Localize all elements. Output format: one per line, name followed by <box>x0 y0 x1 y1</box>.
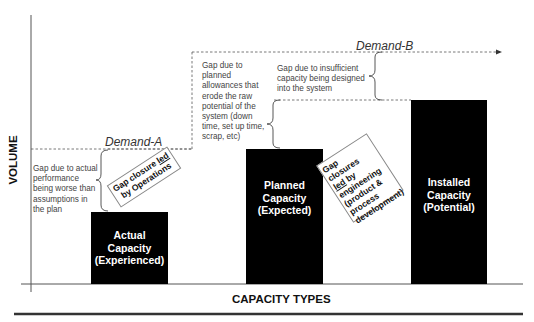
gap-note-actual: Gap due to actual performance being wors… <box>33 164 98 215</box>
note-line: into the system <box>277 84 365 94</box>
demand-b-label: Demand-B <box>356 39 413 53</box>
capacity-gap-diagram: VOLUME CAPACITY TYPES Demand-A Demand-B … <box>0 0 534 322</box>
arrow-head-icon <box>496 50 502 55</box>
bar-planned-capacity: Planned Capacity (Expected) <box>246 149 323 284</box>
bar-label-line: (Potential) <box>411 201 487 214</box>
bar-installed-capacity: Installed Capacity (Potential) <box>411 100 487 284</box>
note-line: Gap due to <box>202 61 264 71</box>
note-line: Gap due to insufficient <box>277 64 365 74</box>
x-axis-title: CAPACITY TYPES <box>232 293 331 305</box>
note-line: time, set up time, <box>202 122 264 132</box>
note-line: scrap, etc) <box>202 132 264 142</box>
note-line: Gap due to actual <box>33 164 98 174</box>
note-line: system (down <box>202 112 264 122</box>
bar-actual-capacity: Actual Capacity (Experienced) <box>91 212 168 284</box>
note-line: capacity being designed <box>277 74 365 84</box>
bar-label-line: Capacity <box>91 242 168 255</box>
demand-a-label: Demand-A <box>105 135 162 149</box>
gap-note-planned: Gap due to planned allowances that erode… <box>202 61 264 143</box>
bar-label-line: Actual <box>91 229 168 242</box>
note-line: potential of the <box>202 102 264 112</box>
brace-planned-icon <box>267 100 280 148</box>
note-line: allowances that <box>202 81 264 91</box>
brace-installed-icon <box>369 52 382 100</box>
bar-label-line: Capacity <box>246 192 323 205</box>
note-line: assumptions in <box>33 195 98 205</box>
note-line: planned <box>202 71 264 81</box>
bar-label-line: Planned <box>246 179 323 192</box>
bar-label-line: (Expected) <box>246 204 323 217</box>
brace-actual-icon <box>96 150 108 211</box>
y-axis-title: VOLUME <box>7 135 19 184</box>
note-line: erode the raw <box>202 92 264 102</box>
note-line: the plan <box>33 205 98 215</box>
bar-label-line: (Experienced) <box>91 254 168 267</box>
bar-label-line: Capacity <box>411 189 487 202</box>
gap-note-installed: Gap due to insufficient capacity being d… <box>277 64 365 95</box>
note-line: performance <box>33 174 98 184</box>
bar-label-line: Installed <box>411 176 487 189</box>
note-line: being worse than <box>33 184 98 194</box>
